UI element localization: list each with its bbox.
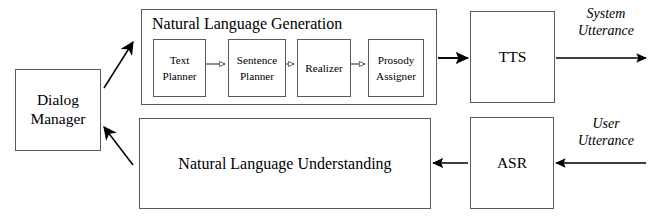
edge-dialog-manager-to-nlg [104, 42, 133, 88]
label-user-utterance: User Utterance [565, 116, 647, 149]
node-natural-language-generation: Natural Language Generation Text Planner… [141, 9, 437, 105]
node-text-planner-label: Text Planner [160, 52, 198, 84]
node-asr-label: ASR [495, 154, 529, 173]
node-prosody-assigner: Prosody Assigner [368, 39, 424, 97]
node-dialog-manager: Dialog Manager [15, 69, 101, 151]
node-realizer: Realizer [297, 39, 351, 97]
nlg-title-text: Natural Language Generation [152, 15, 342, 32]
node-realizer-label: Realizer [303, 60, 344, 76]
node-tts-label: TTS [497, 48, 529, 67]
edge-nlu-to-dialog-manager [104, 127, 133, 165]
node-dialog-manager-label: Dialog Manager [28, 91, 87, 129]
node-natural-language-understanding: Natural Language Understanding [139, 118, 431, 209]
node-tts: TTS [470, 11, 555, 103]
node-natural-language-generation-title: Natural Language Generation [152, 14, 342, 34]
node-sentence-planner-label: Sentence Planner [235, 52, 279, 84]
node-natural-language-understanding-label: Natural Language Understanding [176, 154, 393, 174]
node-asr: ASR [470, 117, 554, 209]
node-prosody-assigner-label: Prosody Assigner [374, 52, 418, 84]
node-text-planner: Text Planner [153, 39, 206, 97]
label-system-utterance: System Utterance [565, 6, 647, 39]
architecture-diagram: Dialog Manager Natural Language Generati… [0, 0, 650, 224]
node-sentence-planner: Sentence Planner [228, 39, 286, 97]
